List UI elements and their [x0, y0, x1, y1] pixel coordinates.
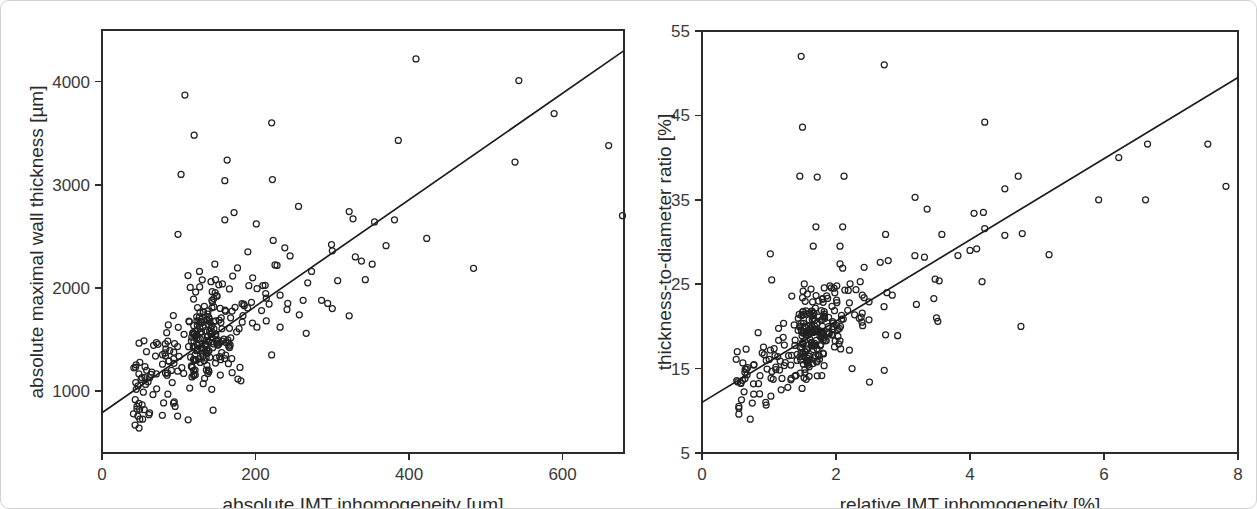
scatter-point: [606, 143, 612, 149]
y-tick-label: 5: [681, 445, 690, 462]
y-tick-label: 4000: [52, 73, 90, 90]
scatter-point: [160, 361, 166, 367]
regression-line: [702, 77, 1238, 402]
y-tick-label: 1000: [52, 383, 90, 400]
scatter-point: [346, 209, 352, 215]
scatter-point: [269, 120, 275, 126]
y-axis-title: thickness-to-diameter ratio [%]: [655, 114, 674, 371]
scatter-point: [329, 306, 335, 312]
scatter-point: [769, 277, 775, 283]
scatter-point: [254, 286, 260, 292]
scatter-point: [971, 210, 977, 216]
y-tick-label: 3000: [52, 176, 90, 193]
scatter-point: [749, 400, 755, 406]
scatter-point: [1145, 141, 1151, 147]
scatter-point: [883, 332, 889, 338]
scatter-point: [209, 386, 215, 392]
scatter-point: [768, 393, 774, 399]
scatter-point: [814, 174, 820, 180]
scatter-point: [187, 385, 193, 391]
scatter-point: [246, 283, 252, 289]
scatter-point: [779, 375, 785, 381]
scatter-point: [974, 246, 980, 252]
scatter-point: [853, 287, 859, 293]
scatter-point: [1018, 323, 1024, 329]
scatter-point: [1015, 173, 1021, 179]
scatter-point: [277, 324, 283, 330]
scatter-point: [740, 360, 746, 366]
scatter-point: [253, 221, 259, 227]
scatter-point: [776, 337, 782, 343]
scatter-point: [913, 301, 919, 307]
scatter-point: [979, 279, 985, 285]
x-tick-label: 200: [241, 466, 269, 483]
x-axis-title: relative IMT inhomogeneity [%]: [840, 495, 1101, 509]
scatter-point: [852, 312, 858, 318]
scatter-point: [391, 217, 397, 223]
scatter-point: [196, 268, 202, 274]
scatter-point: [939, 231, 945, 237]
scatter-point: [187, 284, 193, 290]
scatter-point: [178, 171, 184, 177]
plot-canvas-right: [631, 1, 1257, 509]
scatter-point: [760, 344, 766, 350]
scatter-point: [175, 231, 181, 237]
scatter-point: [329, 242, 335, 248]
scatter-point: [284, 307, 290, 313]
scatter-point: [352, 254, 358, 260]
scatter-point: [199, 277, 205, 283]
x-tick-label: 600: [548, 466, 576, 483]
scatter-point: [169, 380, 175, 386]
scatter-point: [175, 368, 181, 374]
scatter-point: [791, 322, 797, 328]
scatter-point: [222, 178, 228, 184]
scatter-point: [1019, 231, 1025, 237]
plot-canvas-left: [1, 1, 631, 509]
scatter-point: [263, 318, 269, 324]
scatter-point: [849, 366, 855, 372]
scatter-point: [813, 224, 819, 230]
scatter-point: [881, 62, 887, 68]
scatter-point: [1002, 186, 1008, 192]
scatter-point: [132, 397, 138, 403]
x-tick-label: 0: [97, 466, 106, 483]
x-tick-label: 0: [697, 466, 706, 483]
scatter-point: [143, 349, 149, 355]
scatter-point: [912, 253, 918, 259]
scatter-point: [831, 344, 837, 350]
figure-card: 4000 3000 2000 1000 0 200 400 600 absolu…: [0, 0, 1257, 509]
scatter-point: [191, 296, 197, 302]
scatter-point: [229, 356, 235, 362]
scatter-point: [1002, 232, 1008, 238]
x-tick-label: 400: [395, 466, 423, 483]
scatter-point: [175, 324, 181, 330]
scatter-point: [980, 209, 986, 215]
scatter-point: [249, 320, 255, 326]
scatter-point: [303, 330, 309, 336]
scatter-point: [250, 275, 256, 281]
scatter-point: [867, 379, 873, 385]
scatter-point: [747, 416, 753, 422]
scatter-point: [512, 159, 518, 165]
scatter-point: [1223, 183, 1229, 189]
scatter-point: [881, 367, 887, 373]
scatter-point: [154, 386, 160, 392]
scatter-point: [305, 280, 311, 286]
scatter-point: [847, 281, 853, 287]
scatter-point: [362, 277, 368, 283]
scatter-point: [165, 391, 171, 397]
scatter-point: [369, 261, 375, 267]
scatter-point: [767, 347, 773, 353]
scatter-panel-right: 55 45 35 25 15 5 0 2 4 6 8 relative IMT …: [631, 1, 1257, 509]
scatter-point: [1046, 252, 1052, 258]
scatter-point: [797, 173, 803, 179]
scatter-point: [883, 231, 889, 237]
scatter-point: [413, 56, 419, 62]
scatter-point: [296, 312, 302, 318]
scatter-point: [259, 308, 265, 314]
scatter-point: [222, 217, 228, 223]
scatter-point: [738, 397, 744, 403]
scatter-point: [153, 353, 159, 359]
scatter-point: [982, 119, 988, 125]
scatter-point: [778, 387, 784, 393]
